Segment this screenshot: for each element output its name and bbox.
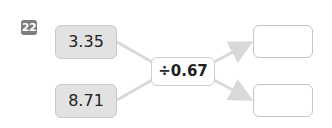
operator-box: ÷0.67: [151, 57, 215, 86]
input-box-2: 8.71: [55, 84, 117, 118]
input-box-1: 3.35: [55, 25, 117, 59]
problem-number-badge: 22: [21, 20, 37, 35]
answer-box-2[interactable]: [253, 84, 313, 117]
answer-box-1[interactable]: [253, 25, 313, 58]
